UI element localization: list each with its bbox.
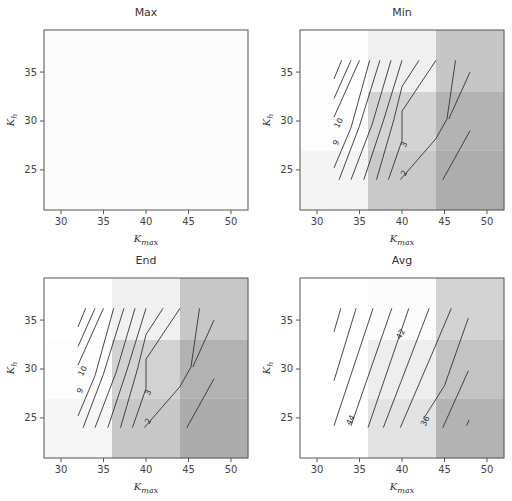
heatmap-cell — [300, 398, 368, 458]
heatmap-cell — [180, 150, 248, 210]
y-axis-label: Kh — [5, 362, 19, 376]
panel-avg: Avg 4442363035404550253035KmaxKh — [256, 248, 512, 498]
heatmap-cell — [436, 278, 504, 340]
x-tick-label: 35 — [97, 216, 110, 227]
heatmap-cell — [436, 398, 504, 458]
x-tick-label: 45 — [438, 464, 451, 475]
y-tick-label: 25 — [280, 164, 293, 175]
y-tick-label: 35 — [24, 67, 37, 78]
heatmap-cell — [112, 398, 180, 458]
panel-max: Max 3035404550253035KmaxKh — [0, 0, 256, 250]
heatmap-cell — [112, 30, 180, 92]
x-tick-label: 45 — [182, 464, 195, 475]
y-tick-label: 35 — [280, 315, 293, 326]
heatmap-cell — [436, 150, 504, 210]
heatmap-cell — [44, 278, 112, 340]
heatmap-cell — [436, 30, 504, 92]
x-tick-label: 30 — [55, 464, 68, 475]
y-tick-label: 30 — [280, 115, 293, 126]
x-tick-label: 50 — [481, 216, 494, 227]
y-tick-label: 30 — [280, 363, 293, 374]
heatmap-cell — [180, 92, 248, 151]
heatmap-cell — [112, 92, 180, 151]
heatmap-cell — [44, 92, 112, 151]
y-tick-label: 25 — [280, 412, 293, 423]
heatmap-end: 910323035404550253035KmaxKh — [0, 248, 256, 498]
x-tick-label: 35 — [97, 464, 110, 475]
y-axis-label: Kh — [261, 114, 275, 128]
heatmap-cell — [180, 278, 248, 340]
heatmap-cell — [436, 340, 504, 399]
x-axis-label: Kmax — [133, 233, 159, 247]
panel-min: Min 910323035404550253035KmaxKh — [256, 0, 512, 250]
heatmap-cell — [112, 150, 180, 210]
y-tick-label: 25 — [24, 164, 37, 175]
x-tick-label: 40 — [396, 216, 409, 227]
heatmap-avg: 4442363035404550253035KmaxKh — [256, 248, 512, 498]
heatmap-cell — [180, 30, 248, 92]
panel-end: End 910323035404550253035KmaxKh — [0, 248, 256, 498]
heatmap-min: 910323035404550253035KmaxKh — [256, 0, 512, 250]
x-tick-label: 35 — [353, 216, 366, 227]
heatmap-cell — [368, 398, 436, 458]
y-tick-label: 30 — [24, 115, 37, 126]
y-tick-label: 35 — [280, 67, 293, 78]
x-axis-label: Kmax — [389, 233, 415, 247]
y-tick-label: 25 — [24, 412, 37, 423]
x-tick-label: 30 — [311, 464, 324, 475]
heatmap-cell — [44, 398, 112, 458]
x-tick-label: 30 — [311, 216, 324, 227]
x-tick-label: 40 — [140, 216, 153, 227]
x-tick-label: 30 — [55, 216, 68, 227]
y-axis-label: Kh — [5, 114, 19, 128]
x-tick-label: 50 — [481, 464, 494, 475]
x-tick-label: 40 — [396, 464, 409, 475]
x-tick-label: 50 — [225, 216, 238, 227]
heatmap-cell — [300, 30, 368, 92]
x-axis-label: Kmax — [389, 481, 415, 495]
x-tick-label: 35 — [353, 464, 366, 475]
x-tick-label: 50 — [225, 464, 238, 475]
heatmap-cell — [44, 150, 112, 210]
heatmap-max: 3035404550253035KmaxKh — [0, 0, 256, 250]
heatmap-cell — [180, 398, 248, 458]
x-tick-label: 45 — [182, 216, 195, 227]
x-axis-label: Kmax — [133, 481, 159, 495]
y-tick-label: 35 — [24, 315, 37, 326]
heatmap-cell — [300, 150, 368, 210]
heatmap-cell — [44, 30, 112, 92]
heatmap-cell — [300, 340, 368, 399]
y-axis-label: Kh — [261, 362, 275, 376]
x-tick-label: 45 — [438, 216, 451, 227]
y-tick-label: 30 — [24, 363, 37, 374]
heatmap-cell — [368, 150, 436, 210]
x-tick-label: 40 — [140, 464, 153, 475]
